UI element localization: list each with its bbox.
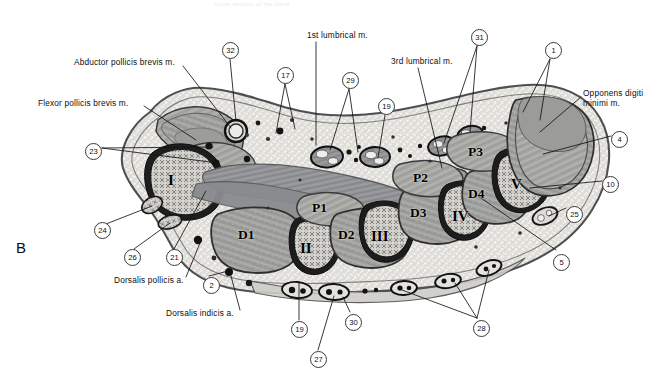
label-opponens-digiti-minimi-line2: minimi m. xyxy=(583,98,620,108)
reference-number-1[interactable]: 1 xyxy=(545,42,562,59)
label-flexor-pollicis-brevis: Flexor pollicis brevis m. xyxy=(38,98,128,108)
reference-number-32[interactable]: 32 xyxy=(222,42,239,59)
anatomy-label-palmar-interosseous-2: P2 xyxy=(413,170,428,186)
anatomy-label-metacarpal-5: V xyxy=(511,176,522,193)
reference-number-19-dorsal[interactable]: 19 xyxy=(378,98,395,115)
label-dorsalis-indicis-artery: Dorsalis indicis a. xyxy=(166,308,234,318)
reference-number-29[interactable]: 29 xyxy=(342,72,359,89)
label-dorsalis-pollicis-artery: Dorsalis pollicis a. xyxy=(114,275,184,285)
reference-number-28[interactable]: 28 xyxy=(473,320,490,337)
label-first-lumbrical: 1st lumbrical m. xyxy=(307,30,368,40)
reference-number-24[interactable]: 24 xyxy=(94,222,111,239)
reference-number-19-palmar[interactable]: 19 xyxy=(291,321,308,338)
reference-number-31[interactable]: 31 xyxy=(471,29,488,46)
anatomy-label-metacarpal-2: II xyxy=(300,240,312,257)
reference-number-4[interactable]: 4 xyxy=(611,131,628,148)
label-opponens-digiti-minimi-line1: Opponens digiti xyxy=(583,88,643,98)
anatomy-label-palmar-interosseous-1: P1 xyxy=(312,200,327,216)
reference-number-5[interactable]: 5 xyxy=(553,254,570,271)
panel-label-b: B xyxy=(16,239,26,256)
anatomy-label-dorsal-interosseous-2: D2 xyxy=(338,227,355,243)
anatomy-label-metacarpal-1: I xyxy=(168,172,174,189)
reference-number-10[interactable]: 10 xyxy=(602,176,619,193)
anatomy-label-dorsal-interosseous-1: D1 xyxy=(238,227,255,243)
anatomy-label-palmar-interosseous-3: P3 xyxy=(468,144,483,160)
reference-number-30[interactable]: 30 xyxy=(345,314,362,331)
reference-number-27[interactable]: 27 xyxy=(310,351,327,368)
reference-number-21[interactable]: 21 xyxy=(166,249,183,266)
anatomy-label-metacarpal-3: III xyxy=(371,228,389,245)
anatomy-label-dorsal-interosseous-3: D3 xyxy=(410,205,427,221)
figure-canvas: cross section of the hand xyxy=(0,0,659,378)
reference-number-23[interactable]: 23 xyxy=(85,143,102,160)
anatomy-label-metacarpal-4: IV xyxy=(452,208,469,225)
reference-number-26[interactable]: 26 xyxy=(124,249,141,266)
reference-number-2[interactable]: 2 xyxy=(203,277,220,294)
label-third-lumbrical: 3rd lumbrical m. xyxy=(391,56,453,66)
anatomy-label-dorsal-interosseous-4: D4 xyxy=(468,186,485,202)
label-abductor-pollicis-brevis: Abductor pollicis brevis m. xyxy=(74,57,175,67)
reference-number-25[interactable]: 25 xyxy=(566,206,583,223)
reference-number-17[interactable]: 17 xyxy=(277,67,294,84)
